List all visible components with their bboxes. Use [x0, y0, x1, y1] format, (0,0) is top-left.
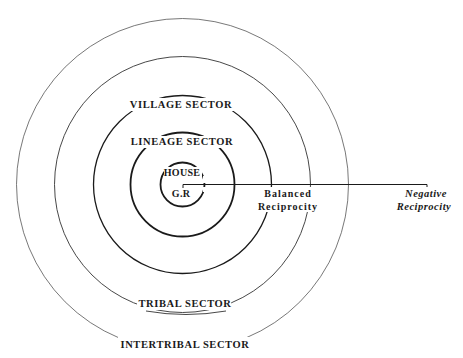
label-knockout [203, 176, 209, 183]
reciprocity-sectors-diagram: VILLAGE SECTOR LINEAGE SECTOR HOUSE G.R … [0, 0, 463, 358]
negative-reciprocity-line2: Reciprocity [396, 201, 451, 212]
tribal-sector-label: TRIBAL SECTOR [138, 298, 231, 309]
village-sector-label: VILLAGE SECTOR [130, 99, 232, 110]
negative-reciprocity-line1: Negative [404, 188, 447, 199]
balanced-reciprocity-line2: Reciprocity [258, 201, 318, 212]
lineage-sector-label: LINEAGE SECTOR [131, 136, 233, 147]
house-label: HOUSE [164, 167, 201, 178]
intertribal-sector-label: INTERTRIBAL SECTOR [121, 339, 250, 350]
center-label-gr: G.R [172, 188, 191, 199]
balanced-reciprocity-line1: Balanced [264, 188, 311, 199]
label-knockout [203, 187, 209, 192]
